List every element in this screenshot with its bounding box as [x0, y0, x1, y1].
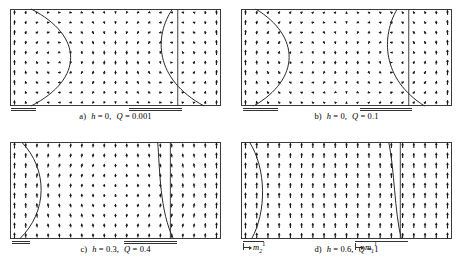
panel-a-domain-bar-1 — [11, 108, 36, 109]
panel-b-vector-field — [241, 9, 452, 106]
panel-a-vector-field — [10, 9, 221, 106]
panel-b-domain-bar-2 — [360, 108, 412, 109]
panel-d-domain-bar-2 — [355, 241, 408, 242]
panel-c-domain-bar-1 — [12, 241, 30, 242]
panel-b-caption: b)h = 0,Q = 0.1 — [231, 111, 462, 121]
panel-d: m21m11d)h = 0.6,Q = 1 — [231, 133, 462, 266]
panel-d-vector-field — [241, 142, 452, 239]
panel-b: b)h = 0,Q = 0.1 — [231, 0, 462, 133]
panel-c-caption: c)h = 0.3,Q = 0.4 — [0, 244, 231, 254]
panel-a: a)h = 0,Q = 0.001 — [0, 0, 231, 133]
panel-c-vector-field — [10, 142, 221, 239]
panel-c: c)h = 0.3,Q = 0.4 — [0, 133, 231, 266]
panel-b-domain-bar-1 — [243, 108, 278, 109]
panel-a-caption: a)h = 0,Q = 0.001 — [0, 111, 231, 121]
panel-d-caption: d)h = 0.6,Q = 1 — [231, 244, 462, 254]
panel-c-domain-bar-2 — [124, 241, 177, 242]
panel-a-domain-bar-2 — [129, 108, 182, 109]
figure-vector-field-grid: a)h = 0,Q = 0.001b)h = 0,Q = 0.1c)h = 0.… — [0, 0, 462, 266]
